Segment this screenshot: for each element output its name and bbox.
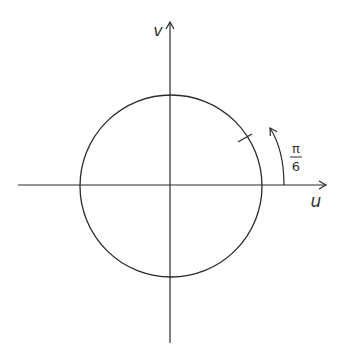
circle bbox=[80, 95, 262, 277]
angle-label: π 6 bbox=[290, 141, 302, 174]
u-axis-label: u bbox=[311, 191, 322, 211]
angle-arrow bbox=[270, 128, 284, 185]
angle-label-denominator: 6 bbox=[292, 159, 300, 174]
v-axis-label: v bbox=[153, 21, 163, 40]
diagram-canvas: π 6 u v bbox=[0, 0, 347, 354]
angle-label-numerator: π bbox=[292, 141, 300, 156]
